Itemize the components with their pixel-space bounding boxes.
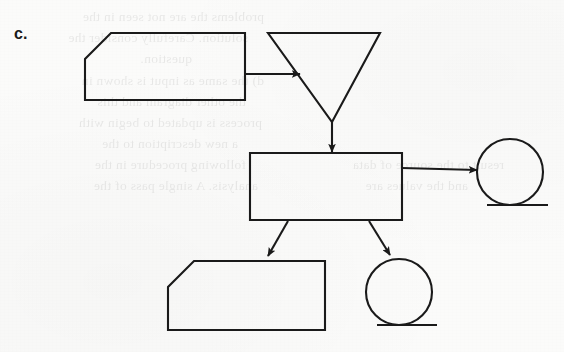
collate-circle-shape-bottom <box>366 259 432 325</box>
manual-input-shape-top-left <box>85 33 245 100</box>
flowchart-diagram <box>0 0 564 352</box>
edge-process-to-bottom-left-input <box>268 221 288 256</box>
inverted-triangle-shape <box>268 33 380 122</box>
edge-process-to-bottom-circle <box>369 221 390 255</box>
process-rectangle-shape <box>250 153 402 220</box>
figure-page: problems the are not seen in thesolution… <box>0 0 564 352</box>
manual-input-shape-bottom-left <box>168 261 325 330</box>
edge-process-to-right-circle <box>402 168 477 170</box>
collate-circle-shape-right <box>477 139 543 205</box>
